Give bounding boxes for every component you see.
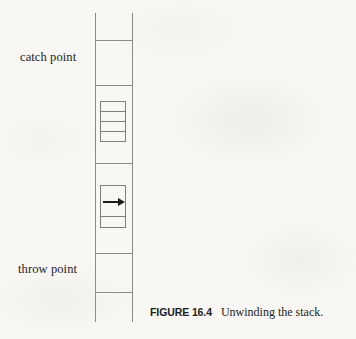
column-left-edge [95, 13, 96, 322]
stack-divider [95, 253, 133, 254]
stack-divider [95, 85, 133, 86]
figure-page: catch point throw point FIGURE 16.4Unwin… [0, 0, 356, 339]
arrow-shaft [103, 201, 119, 203]
stack-divider [95, 40, 133, 41]
throw-point-label: throw point [18, 262, 77, 277]
figure-caption: FIGURE 16.4Unwinding the stack. [150, 302, 323, 320]
arrow-frame [100, 185, 126, 228]
stack-divider [95, 292, 133, 293]
frame-row-line [101, 111, 125, 112]
column-right-edge [132, 13, 133, 322]
arrow-right-icon [103, 198, 125, 206]
figure-caption-text: Unwinding the stack. [221, 305, 323, 319]
figure-number: FIGURE 16.4 [150, 306, 212, 318]
stack-divider [95, 163, 133, 164]
stack-column [95, 13, 133, 322]
catch-point-label: catch point [20, 50, 76, 65]
frame-row-line [101, 121, 125, 122]
four-row-frame [100, 101, 126, 142]
frame-row-line [101, 216, 125, 217]
frame-row-line [101, 131, 125, 132]
arrow-head [118, 198, 125, 206]
